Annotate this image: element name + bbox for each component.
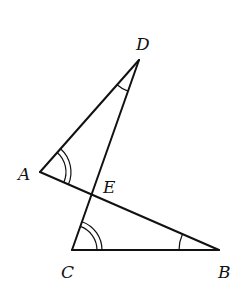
label-c: C (61, 262, 74, 282)
triangle-diagram: D A E C B (0, 0, 245, 305)
angle-b-arc (179, 234, 183, 250)
label-a: A (16, 164, 30, 184)
segment-dc (72, 60, 139, 250)
segment-ad (40, 60, 139, 172)
angle-d-arc (117, 85, 128, 91)
segment-ab (40, 172, 219, 250)
label-d: D (135, 34, 150, 54)
angle-a-arc-inner (57, 153, 66, 183)
label-e: E (102, 177, 116, 197)
label-b: B (217, 262, 231, 282)
